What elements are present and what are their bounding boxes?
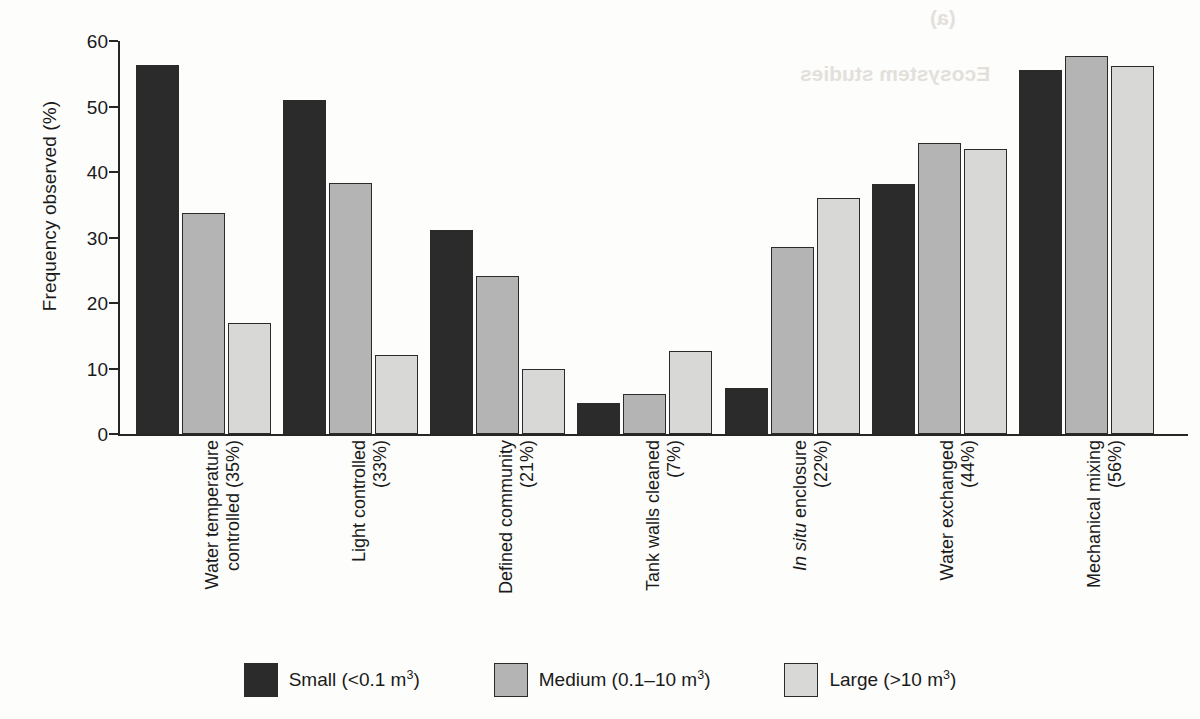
- figure-bar-chart: (a) Ecosystem studies Frequency observed…: [0, 0, 1200, 719]
- legend-label: Large (>10 m3): [829, 668, 956, 691]
- x-axis-category-labels: Water temperaturecontrolled (35%)Light c…: [118, 440, 1188, 655]
- y-tick-label: 20: [48, 294, 108, 313]
- bar-large: [817, 198, 860, 434]
- bleed-through-panel-label: (a): [930, 6, 956, 30]
- x-axis-category-label: Water exchanged(44%): [935, 440, 981, 655]
- x-axis-category-label-text: Light controlled(33%): [347, 440, 393, 655]
- bar-large: [375, 355, 418, 434]
- bar-medium: [918, 143, 961, 434]
- bar-medium: [182, 213, 225, 434]
- bar-large: [1111, 66, 1154, 434]
- y-tick-label: 30: [48, 229, 108, 248]
- y-tick-mark: [109, 433, 118, 435]
- y-tick-label: 50: [48, 98, 108, 117]
- bar-group: [430, 41, 565, 434]
- bar-groups: [118, 41, 1188, 434]
- bar-group: [136, 41, 271, 434]
- x-axis-category-label-text: Water temperaturecontrolled (35%): [200, 440, 246, 655]
- bar-group: [577, 41, 712, 434]
- x-axis-category-label-text: Defined community(21%): [494, 440, 540, 655]
- bar-group: [725, 41, 860, 434]
- y-tick-label: 10: [48, 360, 108, 379]
- bar-medium: [623, 394, 666, 434]
- bar-small: [872, 184, 915, 434]
- x-axis-category-label-text: Tank walls cleaned(7%): [641, 440, 687, 655]
- legend-label: Small (<0.1 m3): [289, 668, 420, 691]
- x-axis-category-label-text: Water exchanged(44%): [935, 440, 981, 655]
- bar-group: [1019, 41, 1154, 434]
- y-tick-mark: [109, 237, 118, 239]
- bar-large: [964, 149, 1007, 434]
- x-axis-category-label-text: In situ enclosure(22%): [788, 440, 834, 655]
- legend-swatch: [244, 663, 278, 697]
- bar-small: [283, 100, 326, 434]
- legend-item: Small (<0.1 m3): [244, 663, 420, 697]
- y-tick-mark: [109, 302, 118, 304]
- bar-small: [1019, 70, 1062, 434]
- bar-medium: [476, 276, 519, 435]
- y-axis-title: Frequency observed (%): [39, 6, 61, 406]
- legend: Small (<0.1 m3)Medium (0.1–10 m3)Large (…: [0, 663, 1200, 697]
- bar-small: [577, 403, 620, 434]
- y-tick-mark: [109, 106, 118, 108]
- bar-large: [669, 351, 712, 434]
- y-tick-mark: [109, 40, 118, 42]
- x-axis-category-label: Mechanical mixing(56%): [1082, 440, 1128, 655]
- x-axis-line: [118, 434, 1188, 436]
- bar-large: [228, 323, 271, 434]
- x-axis-category-label: In situ enclosure(22%): [788, 440, 834, 655]
- bar-group: [283, 41, 418, 434]
- bar-small: [725, 388, 768, 434]
- legend-item: Large (>10 m3): [784, 663, 956, 697]
- x-axis-category-label: Tank walls cleaned(7%): [641, 440, 687, 655]
- bar-small: [430, 230, 473, 434]
- plot-area: 0102030405060: [118, 41, 1188, 434]
- y-tick-label: 40: [48, 163, 108, 182]
- x-axis-category-label: Defined community(21%): [494, 440, 540, 655]
- bar-medium: [329, 183, 372, 434]
- bar-group: [872, 41, 1007, 434]
- legend-item: Medium (0.1–10 m3): [494, 663, 711, 697]
- y-tick-mark: [109, 171, 118, 173]
- y-tick-label: 60: [48, 32, 108, 51]
- y-tick-mark: [109, 368, 118, 370]
- x-axis-category-label: Water temperaturecontrolled (35%): [200, 440, 246, 655]
- bar-small: [136, 65, 179, 434]
- bar-medium: [771, 247, 814, 434]
- bar-large: [522, 369, 565, 435]
- x-axis-category-label-text: Mechanical mixing(56%): [1082, 440, 1128, 655]
- legend-label: Medium (0.1–10 m3): [539, 668, 711, 691]
- legend-swatch: [494, 663, 528, 697]
- bar-medium: [1065, 56, 1108, 434]
- x-axis-category-label: Light controlled(33%): [347, 440, 393, 655]
- y-tick-label: 0: [48, 425, 108, 444]
- legend-swatch: [784, 663, 818, 697]
